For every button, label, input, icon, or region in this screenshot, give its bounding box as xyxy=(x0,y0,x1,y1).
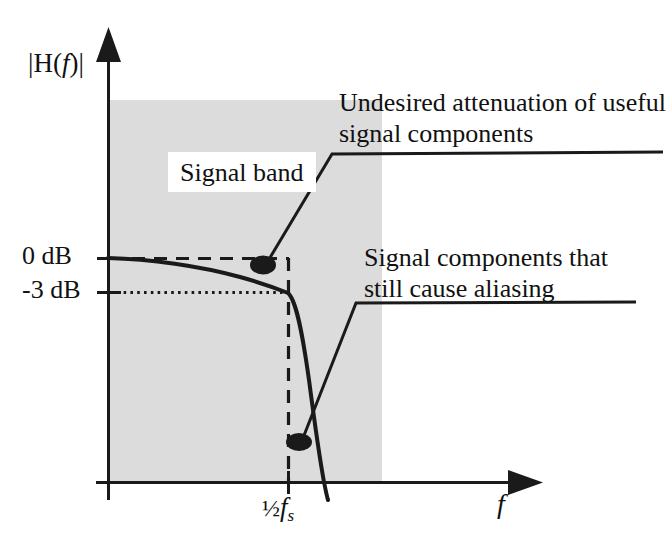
y-tick-label-minus-three-db: -3 dB xyxy=(22,275,81,306)
x-tick-label-subscript-s: s xyxy=(288,506,295,525)
annotation-undesired-attenuation-line-1: Undesired attenuation of useful xyxy=(339,88,666,119)
annotation-still-cause-aliasing: Signal components that still cause alias… xyxy=(364,243,608,304)
annotation-still-cause-aliasing-line-2: still cause aliasing xyxy=(364,274,608,305)
x-tick-label-fraction: ½ xyxy=(262,495,280,521)
y-axis-label-post: )| xyxy=(69,48,83,78)
annotation-still-cause-aliasing-line-1: Signal components that xyxy=(364,243,608,274)
y-axis-label: |H(f)| xyxy=(28,48,84,80)
x-tick-label-half-fs: ½fs xyxy=(262,492,294,526)
x-tick-label-italic-f: f xyxy=(280,492,288,522)
x-axis-label: f xyxy=(497,487,505,520)
signal-band-label: Signal band xyxy=(172,156,314,191)
y-axis-label-pre: |H( xyxy=(28,48,62,78)
annotation-undesired-attenuation: Undesired attenuation of useful signal c… xyxy=(339,88,666,149)
marker-in-stopband xyxy=(286,433,312,451)
annotation-undesired-attenuation-line-2: signal components xyxy=(339,119,666,150)
y-tick-label-zero-db: 0 dB xyxy=(22,241,72,272)
y-axis-arrowhead xyxy=(96,27,121,62)
x-axis-arrowhead xyxy=(508,470,543,495)
marker-on-passband-edge xyxy=(250,256,276,275)
